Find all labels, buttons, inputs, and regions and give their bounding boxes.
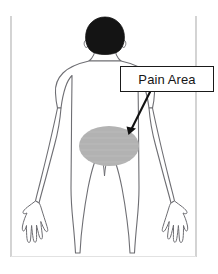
pain-area-label-box: Pain Area (120, 66, 214, 92)
head-hair-shape (86, 17, 125, 55)
arm-left-shape (36, 108, 62, 203)
hand-left-shape (22, 201, 47, 243)
arm-right-shape (149, 108, 175, 203)
body-diagram-svg (0, 0, 218, 274)
pain-area-label-text: Pain Area (138, 73, 195, 86)
pain-diagram-canvas: Pain Area (0, 0, 218, 274)
hand-right-shape (162, 201, 187, 243)
